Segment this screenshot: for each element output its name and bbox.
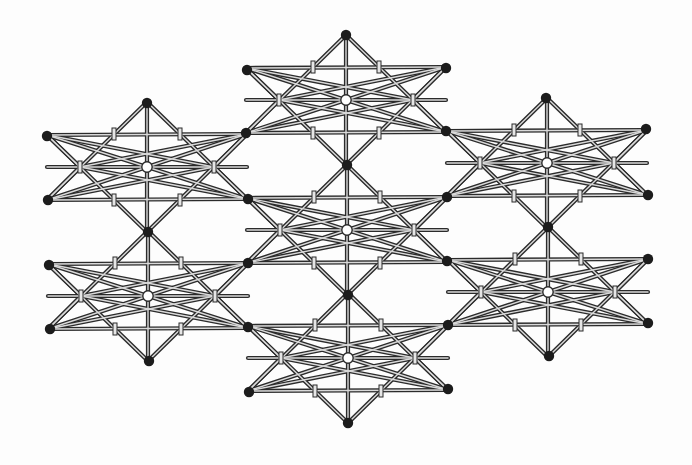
truss-junction-connector bbox=[379, 319, 383, 331]
truss-junction-connector bbox=[612, 157, 616, 169]
truss-junction-connector bbox=[311, 61, 315, 73]
solid-node bbox=[544, 351, 554, 361]
solid-node bbox=[643, 318, 653, 328]
truss-junction-connector bbox=[311, 127, 315, 139]
truss-junction-connector bbox=[578, 124, 582, 136]
truss-junction-connector bbox=[179, 323, 183, 335]
solid-node bbox=[442, 192, 452, 202]
truss-junction-connector bbox=[279, 352, 283, 364]
truss-junction-connector bbox=[78, 161, 82, 173]
truss-junction-connector bbox=[179, 257, 183, 269]
solid-node bbox=[42, 131, 52, 141]
solid-node bbox=[443, 384, 453, 394]
solid-node bbox=[343, 418, 353, 428]
solid-node bbox=[241, 128, 251, 138]
hollow-node bbox=[342, 225, 352, 235]
truss-junction-connector bbox=[112, 128, 116, 140]
solid-node bbox=[341, 30, 351, 40]
truss-junction-connector bbox=[312, 191, 316, 203]
truss-junction-connector bbox=[578, 190, 582, 202]
truss-junction-connector bbox=[411, 94, 415, 106]
truss-junction-connector bbox=[212, 161, 216, 173]
truss-junction-connector bbox=[113, 323, 117, 335]
solid-node bbox=[243, 258, 253, 268]
truss-junction-connector bbox=[513, 319, 517, 331]
solid-node bbox=[343, 290, 353, 300]
lattice-diagram: Double-layer truss lattice composed of s… bbox=[0, 0, 692, 465]
truss-junction-connector bbox=[313, 319, 317, 331]
truss-junction-connector bbox=[478, 157, 482, 169]
truss-junction-connector bbox=[378, 191, 382, 203]
truss-junction-connector bbox=[178, 194, 182, 206]
solid-node bbox=[643, 190, 653, 200]
hollow-node bbox=[341, 95, 351, 105]
truss-junction-connector bbox=[312, 257, 316, 269]
solid-node bbox=[643, 254, 653, 264]
truss-junction-connector bbox=[512, 124, 516, 136]
truss-junction-connector bbox=[479, 286, 483, 298]
truss-junction-connector bbox=[377, 61, 381, 73]
truss-junction-connector bbox=[313, 385, 317, 397]
hollow-node bbox=[142, 162, 152, 172]
truss-junction-connector bbox=[379, 385, 383, 397]
solid-node bbox=[443, 320, 453, 330]
solid-node bbox=[242, 65, 252, 75]
truss-junction-connector bbox=[413, 352, 417, 364]
truss-junction-connector bbox=[213, 290, 217, 302]
solid-node bbox=[641, 124, 651, 134]
solid-node bbox=[143, 227, 153, 237]
solid-node bbox=[43, 195, 53, 205]
solid-node bbox=[144, 356, 154, 366]
truss-junction-connector bbox=[579, 319, 583, 331]
solid-node bbox=[442, 256, 452, 266]
truss-junction-connector bbox=[377, 127, 381, 139]
solid-node bbox=[44, 260, 54, 270]
truss-junction-connector bbox=[512, 190, 516, 202]
truss-junction-connector bbox=[79, 290, 83, 302]
truss-junction-connector bbox=[613, 286, 617, 298]
hollow-node bbox=[543, 287, 553, 297]
lattice-svg bbox=[0, 0, 692, 465]
truss-junction-connector bbox=[113, 257, 117, 269]
solid-node bbox=[243, 194, 253, 204]
truss-junction-connector bbox=[277, 94, 281, 106]
solid-node bbox=[244, 387, 254, 397]
solid-node bbox=[543, 222, 553, 232]
truss-junction-connector bbox=[112, 194, 116, 206]
truss-junction-connector bbox=[378, 257, 382, 269]
solid-node bbox=[243, 322, 253, 332]
truss-junction-connector bbox=[579, 253, 583, 265]
truss-junction-connector bbox=[513, 253, 517, 265]
hollow-node bbox=[343, 353, 353, 363]
hollow-node bbox=[143, 291, 153, 301]
solid-node bbox=[441, 63, 451, 73]
hollow-node bbox=[542, 158, 552, 168]
truss-junction-connector bbox=[278, 224, 282, 236]
solid-node bbox=[45, 324, 55, 334]
solid-node bbox=[441, 126, 451, 136]
solid-node bbox=[142, 98, 152, 108]
solid-node bbox=[342, 160, 352, 170]
truss-junction-connector bbox=[412, 224, 416, 236]
truss-junction-connector bbox=[178, 128, 182, 140]
solid-node bbox=[541, 93, 551, 103]
